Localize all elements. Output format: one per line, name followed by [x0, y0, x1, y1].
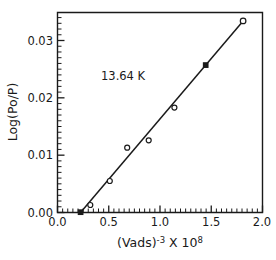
temperature-annotation: 13.64 K — [101, 69, 146, 83]
y-tick-label: 0.01 — [27, 148, 53, 162]
y-tick-label: 0.03 — [27, 34, 53, 48]
x-tick-label: 1.0 — [151, 215, 169, 229]
x-axis-title-mid: X 10 — [165, 235, 197, 250]
x-axis-title-exponent-2: 8 — [197, 235, 202, 245]
plot-frame — [58, 13, 263, 213]
data-point-marker — [172, 105, 177, 110]
svg-text:(Vads)-3 X 108: (Vads)-3 X 108 — [117, 235, 203, 251]
x-axis-title-base: (Vads) — [117, 235, 156, 250]
x-tick-label: 0.5 — [100, 215, 118, 229]
data-point-marker — [146, 138, 151, 143]
y-axis-tick-labels: 0.00 0.01 0.02 0.03 — [27, 34, 53, 220]
data-point-marker — [240, 18, 246, 24]
x-axis-title-exponent-1: -3 — [157, 235, 165, 245]
data-point-marker — [78, 210, 83, 215]
y-tick-label: 0.02 — [27, 91, 53, 105]
fit-line — [81, 20, 244, 212]
data-point-marker — [203, 63, 208, 68]
y-axis-title: Log(Po/P) — [5, 83, 20, 142]
x-tick-label: 2.0 — [253, 215, 271, 229]
x-axis-tick-labels: 0.0 0.5 1.0 1.5 2.0 — [48, 215, 271, 229]
y-tick-label: 0.00 — [27, 206, 53, 220]
data-point-marker — [88, 203, 93, 208]
temperature-annotation-text: 13.64 K — [101, 69, 146, 83]
data-point-marker — [107, 179, 112, 184]
x-axis-title: (Vads)-3 X 108 — [117, 235, 203, 251]
y-axis-title-text: Log(Po/P) — [5, 83, 20, 142]
scatter-plot-figure: 0.0 0.5 1.0 1.5 2.0 0.00 0.01 0.02 0.03 … — [0, 0, 276, 260]
data-point-marker — [125, 145, 130, 150]
x-tick-label: 1.5 — [202, 215, 220, 229]
